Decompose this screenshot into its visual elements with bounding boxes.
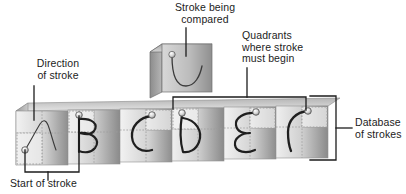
diagram-canvas: Direction of stroke Stroke being compare… (0, 0, 406, 194)
leader-lines (0, 0, 406, 194)
leader-database-bracket (310, 96, 336, 160)
leader-start-of-stroke-bracket (25, 116, 79, 172)
leader-quadrants-bracket (173, 97, 306, 110)
